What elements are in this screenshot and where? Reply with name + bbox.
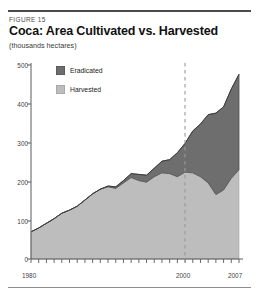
legend-label-harvested: Harvested bbox=[70, 86, 101, 93]
y-tick-marks bbox=[27, 65, 31, 259]
chart-legend: Eradicated Harvested bbox=[56, 66, 103, 104]
legend-label-eradicated: Eradicated bbox=[70, 67, 103, 74]
harvested-swatch-icon bbox=[56, 85, 65, 94]
figure-container: FIGURE 15 Coca: Area Cultivated vs. Harv… bbox=[0, 0, 259, 297]
x-tick-marks bbox=[31, 259, 239, 263]
area-chart-svg bbox=[0, 0, 259, 297]
legend-item-eradicated: Eradicated bbox=[56, 66, 103, 75]
eradicated-swatch-icon bbox=[56, 66, 65, 75]
chart-plot-area bbox=[0, 0, 259, 297]
legend-item-harvested: Harvested bbox=[56, 85, 103, 94]
